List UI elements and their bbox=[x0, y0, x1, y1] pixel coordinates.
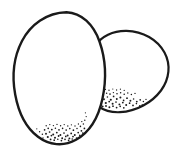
front-egg-outline bbox=[14, 12, 105, 144]
stipple-dot bbox=[134, 93, 135, 94]
stipple-dot bbox=[116, 89, 117, 90]
stipple-dot bbox=[65, 129, 67, 131]
stipple-dot bbox=[68, 137, 70, 139]
stipple-dot bbox=[145, 99, 146, 100]
stipple-dot bbox=[102, 106, 104, 108]
stipple-dot bbox=[139, 99, 141, 101]
stipple-dot bbox=[139, 105, 141, 107]
stipple-dot bbox=[120, 89, 121, 90]
stipple-dot bbox=[76, 137, 78, 139]
stipple-dot bbox=[79, 135, 81, 137]
stipple-dot bbox=[118, 103, 120, 105]
stipple-dot bbox=[112, 103, 114, 105]
stipple-dot bbox=[113, 96, 115, 98]
stipple-dot bbox=[47, 136, 49, 138]
stipple-dot bbox=[60, 125, 61, 126]
stipple-dot bbox=[69, 128, 71, 130]
stipple-dot bbox=[107, 96, 109, 98]
stipple-dot bbox=[57, 138, 59, 140]
stipple-dot bbox=[62, 128, 64, 130]
stipple-dot bbox=[108, 90, 109, 91]
stipple-dot bbox=[112, 105, 114, 107]
stipple-dot bbox=[58, 129, 60, 131]
stipple-dot bbox=[109, 93, 111, 95]
stipple-dot bbox=[113, 92, 114, 93]
stipple-dot bbox=[64, 124, 65, 125]
stipple-dot bbox=[68, 140, 70, 142]
stipple-dot bbox=[124, 90, 125, 91]
stipple-dot bbox=[86, 116, 87, 117]
stipple-dot bbox=[55, 127, 57, 129]
stipple-dot bbox=[119, 97, 121, 99]
stipple-dot bbox=[49, 124, 50, 125]
stipple-dot bbox=[120, 92, 122, 94]
stipple-dot bbox=[105, 105, 107, 107]
stipple-dot bbox=[47, 128, 49, 130]
stipple-dot bbox=[116, 93, 118, 95]
stipple-dot bbox=[131, 94, 133, 96]
stipple-dot bbox=[108, 101, 110, 103]
stipple-dot bbox=[39, 131, 40, 132]
stipple-dot bbox=[105, 102, 107, 104]
stipple-dot bbox=[110, 99, 112, 101]
stipple-dot bbox=[53, 139, 55, 141]
stipple-dot bbox=[49, 131, 51, 133]
stipple-dot bbox=[77, 132, 79, 134]
stipple-dot bbox=[127, 92, 128, 93]
two-eggs-drawing bbox=[0, 0, 183, 157]
stipple-dot bbox=[133, 98, 135, 100]
stipple-dot bbox=[70, 133, 72, 135]
stipple-dot bbox=[81, 121, 82, 122]
stipple-dot bbox=[129, 100, 131, 102]
stipple-dot bbox=[59, 134, 61, 136]
stipple-dot bbox=[129, 102, 131, 104]
stipple-dot bbox=[36, 128, 37, 129]
stipple-dot bbox=[83, 123, 85, 125]
stipple-dot bbox=[50, 139, 52, 141]
stipple-dot bbox=[84, 128, 86, 130]
stipple-dot bbox=[42, 137, 43, 138]
stipple-dot bbox=[51, 129, 53, 131]
stipple-dot bbox=[136, 103, 138, 105]
stipple-dot bbox=[132, 105, 134, 107]
stipple-dot bbox=[78, 123, 79, 124]
stipple-dot bbox=[116, 98, 118, 100]
stipple-dot bbox=[123, 107, 125, 109]
stipple-dot bbox=[143, 101, 145, 103]
stipple-dot bbox=[61, 140, 63, 142]
stipple-dot bbox=[81, 130, 83, 132]
stipple-dot bbox=[45, 133, 47, 135]
stipple-dot bbox=[71, 138, 73, 140]
stipple-dot bbox=[123, 100, 125, 102]
stipple-dot bbox=[72, 136, 74, 138]
stipple-dot bbox=[61, 137, 63, 139]
stipple-dot bbox=[142, 104, 143, 105]
stipple-dot bbox=[71, 124, 72, 125]
stipple-dot bbox=[53, 125, 54, 126]
stipple-dot bbox=[122, 102, 124, 104]
stipple-dot bbox=[51, 135, 53, 137]
stipple-dot bbox=[108, 106, 110, 108]
stipple-dot bbox=[73, 129, 75, 131]
stipple-dot bbox=[67, 134, 69, 136]
stipple-dot bbox=[125, 104, 127, 106]
stipple-dot bbox=[106, 92, 108, 94]
stipple-dot bbox=[126, 97, 128, 99]
stipple-dot bbox=[82, 132, 84, 134]
illustration-canvas: Two Eggs bbox=[0, 0, 183, 157]
stipple-dot bbox=[136, 101, 138, 103]
stipple-dot bbox=[116, 107, 118, 109]
stipple-dot bbox=[85, 112, 86, 113]
stipple-dot bbox=[44, 129, 46, 131]
stipple-dot bbox=[63, 132, 65, 134]
stipple-dot bbox=[54, 137, 56, 139]
stipple-dot bbox=[56, 124, 57, 125]
stipple-dot bbox=[52, 133, 54, 135]
stipple-dot bbox=[67, 125, 68, 126]
stipple-dot bbox=[42, 133, 44, 135]
stipple-dot bbox=[64, 139, 66, 141]
stipple-dot bbox=[76, 128, 78, 130]
stipple-dot bbox=[65, 136, 67, 138]
stipple-dot bbox=[80, 126, 82, 128]
stipple-dot bbox=[112, 88, 113, 89]
